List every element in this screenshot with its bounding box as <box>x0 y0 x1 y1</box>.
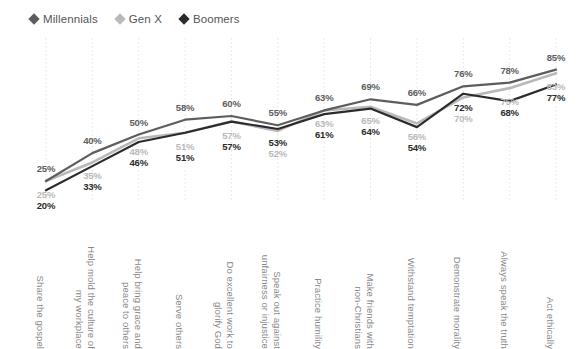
value-label: 48% <box>130 146 148 157</box>
x-axis-label: Speak out againstunfairness or injustice <box>255 203 283 349</box>
value-label: 72% <box>454 101 472 112</box>
value-label: 57% <box>222 129 240 140</box>
x-axis-label: Practice humility <box>296 203 324 349</box>
value-label: 68% <box>500 107 518 118</box>
value-label: 57% <box>222 140 240 151</box>
value-label: 64% <box>361 125 379 136</box>
value-label: 51% <box>176 140 194 151</box>
legend-item-millennials[interactable]: Millennials <box>30 13 98 25</box>
value-label: 61% <box>315 129 333 140</box>
legend-label-millennials: Millennials <box>43 13 98 25</box>
legend-item-boomers[interactable]: Boomers <box>180 13 240 25</box>
x-axis-label: Make friends withnon-Christians <box>348 203 376 349</box>
x-axis-label: Act ethically <box>528 203 556 349</box>
generational-priorities-line-chart: Millennials Gen X Boomers 25%25%20%40%35… <box>0 0 580 349</box>
x-axis-label: Serve others <box>157 203 185 349</box>
value-label: 78% <box>500 64 518 75</box>
value-label: 60% <box>222 98 240 109</box>
value-label: 69% <box>361 81 379 92</box>
legend-label-gen-x: Gen X <box>129 13 162 25</box>
value-label: 55% <box>269 107 287 118</box>
value-label: 58% <box>176 101 194 112</box>
value-label: 53% <box>269 137 287 148</box>
x-axis-label: Share the gospel <box>18 203 46 349</box>
value-label: 75% <box>500 96 518 107</box>
chart-legend: Millennials Gen X Boomers <box>30 13 240 25</box>
diamond-marker-icon <box>114 13 125 24</box>
value-label: 66% <box>408 86 426 97</box>
value-label: 85% <box>547 51 565 62</box>
x-axis-label: Do excellent work toglorify God <box>208 203 236 349</box>
diamond-marker-icon <box>178 13 189 24</box>
value-label: 25% <box>37 163 55 174</box>
value-label: 40% <box>83 135 101 146</box>
value-label: 63% <box>315 92 333 103</box>
x-axis-label: Help mold the culture ofmy workplace <box>69 203 97 349</box>
legend-item-gen-x[interactable]: Gen X <box>116 13 162 25</box>
value-label: 83% <box>547 81 565 92</box>
value-label: 35% <box>83 170 101 181</box>
series-line-millennials <box>46 70 556 181</box>
x-axis-label: Always speak the truth <box>482 203 510 349</box>
value-label: 65% <box>361 114 379 125</box>
value-label: 25% <box>37 189 55 200</box>
series-line-boomers <box>46 84 556 190</box>
value-label: 33% <box>83 181 101 192</box>
value-label: 76% <box>454 68 472 79</box>
x-axis-label: Help bring grace andpeace to others <box>116 203 144 349</box>
value-label: 51% <box>176 151 194 162</box>
value-label: 54% <box>408 142 426 153</box>
plot-area: 25%25%20%40%35%33%50%48%46%58%51%51%60%5… <box>0 36 580 201</box>
series-line-gen-x <box>46 73 556 181</box>
value-label: 56% <box>408 131 426 142</box>
value-label: 50% <box>130 116 148 127</box>
x-axis-label: Demonstrate morality <box>435 203 463 349</box>
legend-label-boomers: Boomers <box>193 13 240 25</box>
value-label: 46% <box>130 157 148 168</box>
x-axis-category-labels: Share the gospelHelp mold the culture of… <box>0 203 580 349</box>
value-label: 63% <box>315 118 333 129</box>
diamond-marker-icon <box>28 13 39 24</box>
value-label: 52% <box>269 148 287 159</box>
x-axis-label: Withstand temptation <box>389 203 417 349</box>
value-label: 77% <box>547 92 565 103</box>
value-label: 70% <box>454 112 472 123</box>
